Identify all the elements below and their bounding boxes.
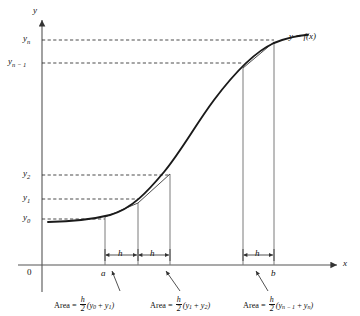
plus-sign: + (98, 301, 103, 310)
y-tick-label-y2: y2 (23, 169, 30, 180)
h-label-3: h (255, 249, 260, 258)
term-1-sub: n − 1 (282, 304, 295, 310)
origin-label: 0 (27, 268, 32, 277)
equals-sign: = (261, 301, 266, 310)
y-tick-sub: n (27, 38, 30, 45)
x-mark-label-a: a (101, 269, 106, 278)
leader-area-1 (112, 271, 120, 291)
x-axis-label: x (343, 259, 347, 268)
curve-label: y = f(x) (289, 32, 316, 41)
area-word: Area (243, 301, 259, 310)
h-over-2-fraction: h 2 (176, 296, 182, 313)
paren-close: ) (310, 301, 313, 310)
figure-canvas (0, 0, 360, 316)
h-measure-arrows (105, 249, 274, 261)
trapezoid-verticals (105, 42, 274, 265)
fraction-denominator: 2 (176, 304, 182, 313)
y-tick-label-y0: y0 (23, 213, 30, 224)
y-tick-label-y1: y1 (23, 193, 30, 204)
plus-sign: + (194, 301, 199, 310)
term-1-sub: 0 (93, 304, 96, 310)
leader-area-2 (166, 271, 180, 291)
y-axis-label: y (33, 6, 37, 15)
plus-sign: + (297, 301, 302, 310)
y-tick-sub: n − 1 (12, 61, 26, 68)
paren-close: ) (207, 301, 210, 310)
paren-close: ) (111, 301, 114, 310)
area-caption-1: Area = h 2 (y0 + y1) (54, 296, 114, 313)
area-caption-3: Area = h 2 (yn − 1 + yn) (243, 296, 313, 313)
y-tick-label-yn: yn (23, 34, 30, 45)
chord-2 (138, 174, 170, 203)
y-tick-sub: 0 (27, 217, 30, 224)
caption-leader-arrows (112, 271, 268, 291)
trapezoidal-rule-figure: y x 0 y = f(x) yn yn − 1 y2 y1 y0 a b h … (0, 0, 360, 316)
y-tick-sub: 2 (27, 173, 30, 180)
fraction-numerator: h (176, 296, 182, 304)
fraction-denominator: 2 (269, 304, 275, 313)
trapezoid-chords (105, 42, 274, 217)
h-over-2-fraction: h 2 (269, 296, 275, 313)
area-caption-2: Area = h 2 (y1 + y2) (150, 296, 210, 313)
fraction-denominator: 2 (80, 304, 86, 313)
equals-sign: = (72, 301, 77, 310)
y-tick-sub: 1 (27, 197, 30, 204)
h-label-2: h (150, 249, 155, 258)
fraction-numerator: h (80, 296, 86, 304)
area-word: Area (54, 301, 70, 310)
area-word: Area (150, 301, 166, 310)
y-tick-label-yn-1: yn − 1 (8, 57, 26, 68)
dashed-gridlines (42, 40, 274, 219)
h-over-2-fraction: h 2 (80, 296, 86, 313)
fraction-numerator: h (269, 296, 275, 304)
equals-sign: = (168, 301, 173, 310)
leader-area-3 (256, 271, 268, 291)
x-mark-label-b: b (271, 269, 276, 278)
term-1-sub: 1 (189, 304, 192, 310)
h-label-1: h (118, 249, 123, 258)
